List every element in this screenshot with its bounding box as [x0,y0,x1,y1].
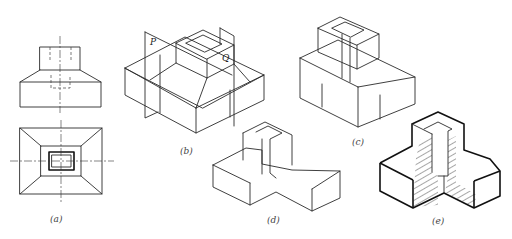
panel-a-front-view [20,36,101,113]
panel-e-section [380,112,500,208]
caption-e: (e) [432,216,444,226]
diagram-canvas: P Q (a) (b) (c) (d) (e) [0,0,512,239]
panel-c-isometric [300,17,415,127]
panel-d-isometric [213,122,340,211]
plane-label-p: P [150,37,156,47]
panel-b-isometric [125,28,264,133]
caption-d: (d) [267,215,280,225]
caption-b: (b) [180,146,193,156]
caption-c: (c) [352,137,364,147]
plane-label-q: Q [222,53,229,63]
panel-a-top-view [10,120,114,203]
diagram-drawing [0,0,512,239]
caption-a: (a) [50,214,62,224]
